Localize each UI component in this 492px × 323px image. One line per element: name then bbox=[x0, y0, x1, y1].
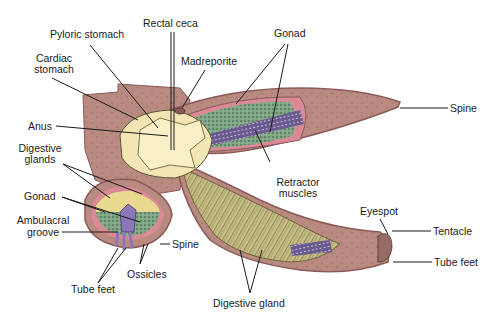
label-tube-feet-left: Tube feet bbox=[71, 283, 115, 295]
arm-tip-eyespot bbox=[378, 234, 392, 262]
label-ossicles: Ossicles bbox=[127, 268, 167, 280]
label-tentacle: Tentacle bbox=[433, 225, 472, 237]
label-digestive-gland: Digestive gland bbox=[213, 297, 285, 309]
label-cardiac-stomach-line2: stomach bbox=[29, 63, 79, 75]
label-pyloric-stomach: Pyloric stomach bbox=[50, 28, 124, 40]
label-madreporite: Madreporite bbox=[181, 55, 237, 67]
label-eyespot: Eyespot bbox=[360, 205, 398, 217]
madreporite-plate bbox=[175, 108, 185, 114]
anatomy-illustration bbox=[0, 0, 492, 323]
label-digestive-glands-line2: glands bbox=[14, 153, 66, 165]
label-anus: Anus bbox=[28, 120, 52, 132]
label-gonad-top: Gonad bbox=[274, 27, 306, 39]
label-gonad-left: Gonad bbox=[24, 190, 56, 202]
label-ambulacral-groove-line1: Ambulacral bbox=[14, 214, 72, 226]
label-spine-bottom: Spine bbox=[172, 238, 199, 250]
sea-star-anatomy-diagram: Pyloric stomach Rectal ceca Cardiac stom… bbox=[0, 0, 492, 323]
label-retractor-muscles-line2: muscles bbox=[268, 187, 328, 199]
label-ambulacral-groove-line2: groove bbox=[14, 226, 72, 238]
label-spine-right: Spine bbox=[450, 102, 477, 114]
label-tube-feet-right: Tube feet bbox=[434, 256, 478, 268]
label-rectal-ceca: Rectal ceca bbox=[143, 17, 198, 29]
